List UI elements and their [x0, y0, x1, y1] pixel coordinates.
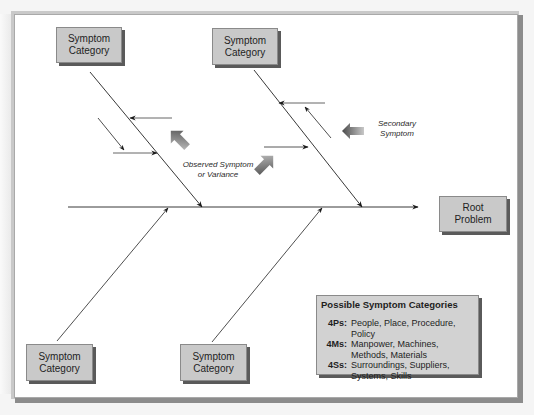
legend-title: Possible Symptom Categories: [321, 299, 474, 310]
legend-key: 4Ms:: [321, 339, 351, 360]
legend-row: 4Ss: Surroundings, Suppliers, Systems, S…: [321, 360, 474, 381]
category-label: Symptom: [224, 35, 266, 47]
category-label: Symptom: [68, 33, 110, 45]
bone-upper-right: [254, 70, 362, 207]
legend-value: Surroundings, Suppliers, Systems, Skills: [351, 360, 474, 381]
root-problem-box[interactable]: Root Problem: [439, 196, 507, 232]
bone-upper-left: [90, 72, 202, 207]
legend-value: Manpower, Machines, Methods, Materials: [351, 339, 474, 360]
category-label: Symptom: [38, 351, 80, 363]
category-box-top-left[interactable]: Symptom Category: [56, 27, 122, 63]
legend-key: 4Ss:: [321, 360, 351, 381]
category-label: Category: [39, 363, 80, 375]
legend-row: 4Ps: People, Place, Procedure, Policy: [321, 318, 474, 339]
fat-arrow-observed-up-left: [164, 124, 193, 153]
category-box-bottom-right[interactable]: Symptom Category: [180, 344, 247, 381]
symptom-categories-legend: Possible Symptom Categories 4Ps: People,…: [316, 295, 479, 375]
category-box-bottom-left[interactable]: Symptom Category: [26, 344, 93, 381]
category-box-top-right[interactable]: Symptom Category: [212, 28, 278, 65]
legend-row: 4Ms: Manpower, Machines, Methods, Materi…: [321, 339, 474, 360]
fishbone-diagram-page: Symptom Category Symptom Category Sympto…: [0, 0, 534, 415]
root-problem-label: Root: [462, 202, 483, 214]
secondary-symptom-label: Secondary Symptom: [373, 119, 421, 139]
category-label: Category: [193, 363, 234, 375]
observed-symptom-label: Observed Symptom or Variance: [176, 160, 260, 180]
bone-lower-left: [57, 208, 168, 341]
category-label: Category: [69, 45, 110, 57]
fat-arrow-secondary-left: [342, 123, 364, 139]
sub-arrow-ul-2: [98, 118, 124, 150]
bone-lower-right: [212, 208, 322, 342]
sub-arrow-ur-2: [305, 107, 331, 138]
root-problem-label: Problem: [454, 214, 491, 226]
category-label: Category: [225, 47, 266, 59]
legend-value: People, Place, Procedure, Policy: [351, 318, 474, 339]
category-label: Symptom: [192, 351, 234, 363]
legend-key: 4Ps:: [321, 318, 351, 339]
